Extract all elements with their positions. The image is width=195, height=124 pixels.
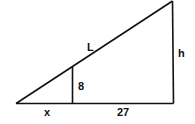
triangle-diagram: L h 8 x 27 — [0, 0, 195, 124]
label-right-base: 27 — [117, 106, 129, 118]
label-hypotenuse: L — [87, 41, 94, 53]
label-height: h — [178, 47, 185, 59]
height-line — [173, 1, 174, 104]
label-left-base: x — [44, 106, 51, 118]
label-inner-height: 8 — [78, 80, 84, 92]
hypotenuse-line — [16, 1, 173, 104]
